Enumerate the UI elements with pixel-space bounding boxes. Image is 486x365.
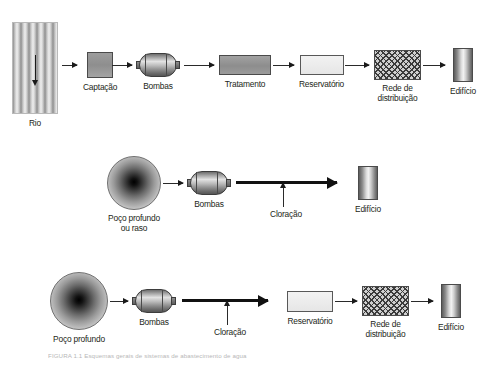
intake-box-icon — [87, 52, 113, 78]
arrow-cloracao-row3 — [227, 305, 228, 325]
node-cloracao-row3-label: Cloração — [202, 327, 258, 337]
node-rio: Rio — [12, 22, 58, 128]
pump-cap-right-icon — [166, 54, 171, 76]
pump-icon — [132, 289, 176, 313]
arrow-rede-to-edificio — [423, 65, 445, 66]
pump-cap-right-icon — [217, 172, 222, 194]
arrow-captacao-to-bombas — [112, 65, 132, 66]
node-reservatorio-label: Reservatório — [299, 79, 344, 89]
node-edificio-label: Edifício — [450, 86, 476, 96]
arrow-poco-to-bombas-row3 — [110, 301, 128, 302]
node-rio-label: Rio — [29, 118, 41, 128]
node-reservatorio: Reservatório — [299, 55, 344, 89]
node-reservatorio-row3: Reservatório — [287, 291, 333, 326]
node-bombas: Bombas — [136, 53, 180, 91]
river-flow-arrow-icon — [35, 55, 36, 81]
node-captacao-label: Captação — [83, 82, 117, 92]
building-icon — [358, 166, 378, 200]
arrow-tratamento-to-reservatorio — [273, 65, 294, 66]
node-reservatorio-row3-label: Reservatório — [287, 316, 332, 326]
arrow-rede-to-edificio-row3 — [411, 301, 433, 302]
arrow-bombas-to-tratamento — [184, 65, 214, 66]
node-bombas-label: Bombas — [143, 81, 173, 91]
pump-cap-left-icon — [145, 54, 150, 76]
node-bombas-row3-label: Bombas — [139, 317, 169, 327]
node-rede-distribuicao-row3-label: Rede de distribuição — [366, 320, 406, 339]
arrow-main-pipe-row2 — [236, 181, 337, 184]
distribution-network-box-icon — [374, 50, 421, 80]
node-edificio: Edifício — [450, 48, 476, 96]
diagram-canvas: Rio Captação Bombas Tratamento Reservató… — [0, 0, 486, 365]
node-poco-profundo: Poço profundo — [50, 272, 108, 344]
node-edificio-row2-label: Edifício — [355, 204, 381, 214]
node-cloracao-row2-label: Cloração — [258, 209, 314, 219]
node-captacao: Captação — [83, 52, 117, 92]
pump-cap-right-icon — [162, 290, 167, 312]
node-tratamento: Tratamento — [219, 55, 271, 89]
reservoir-box-icon — [300, 55, 344, 75]
arrow-cloracao-row2 — [283, 187, 284, 207]
arrow-rio-to-captacao — [62, 65, 77, 66]
node-rede-distribuicao: Rede de distribuição — [374, 50, 421, 103]
arrow-reservatorio-to-rede-row3 — [335, 301, 357, 302]
node-tratamento-label: Tratamento — [225, 79, 266, 89]
figure-caption: FIGURA 1.1 Esquemas gerais de sistemas d… — [48, 352, 468, 363]
reservoir-box-icon — [287, 291, 333, 312]
river-icon — [12, 22, 58, 114]
pump-icon — [187, 171, 231, 195]
arrow-poco-to-bombas-row2 — [163, 183, 183, 184]
pump-cap-left-icon — [141, 290, 146, 312]
pump-cap-left-icon — [196, 172, 201, 194]
well-icon — [107, 156, 161, 210]
treatment-box-icon — [219, 55, 271, 75]
pump-icon — [136, 53, 180, 77]
building-icon — [441, 284, 461, 318]
pump-outlet-nub-icon — [175, 61, 180, 69]
node-bombas-row3: Bombas — [132, 289, 176, 327]
node-bombas-row2: Bombas — [187, 171, 231, 209]
pump-outlet-nub-icon — [226, 179, 231, 187]
arrow-reservatorio-to-rede — [345, 65, 369, 66]
node-poco-profundo-ou-raso-label: Poço profundo ou raso — [108, 214, 160, 233]
node-poco-profundo-ou-raso: Poço profundo ou raso — [107, 156, 161, 233]
node-bombas-row2-label: Bombas — [194, 199, 224, 209]
pump-outlet-nub-icon — [171, 297, 176, 305]
building-icon — [453, 48, 473, 82]
node-edificio-row3-label: Edifício — [438, 322, 464, 332]
distribution-network-box-icon — [362, 286, 409, 316]
node-rede-distribuicao-label: Rede de distribuição — [378, 84, 418, 103]
node-edificio-row3: Edifício — [438, 284, 464, 332]
node-poco-profundo-label: Poço profundo — [53, 334, 105, 344]
node-edificio-row2: Edifício — [355, 166, 381, 214]
well-icon — [50, 272, 108, 330]
node-rede-distribuicao-row3: Rede de distribuição — [362, 286, 409, 339]
